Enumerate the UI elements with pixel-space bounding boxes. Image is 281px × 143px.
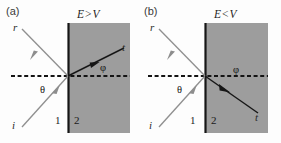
- condition-energy-b: E: [214, 8, 221, 20]
- phi-angle-label-a: φ: [100, 63, 106, 74]
- ray-label-t-b: t: [255, 112, 258, 123]
- theta-angle-label-a: θ: [40, 85, 45, 96]
- condition-potential-a: V: [93, 8, 100, 20]
- reflected-ray-line: [22, 29, 68, 76]
- ray-label-r-a: r: [13, 22, 17, 33]
- panel-label-a: (a): [6, 6, 19, 17]
- incident-ray-line: [22, 76, 68, 127]
- reflected-ray-arrowhead: [167, 51, 175, 60]
- incident-ray-line: [159, 76, 205, 127]
- region-label-1-a: 1: [55, 115, 61, 126]
- panel-label-b: (b): [144, 6, 157, 17]
- condition-energy-a: E: [77, 8, 84, 20]
- ray-label-i-a: i: [12, 120, 15, 131]
- ray-label-r-b: r: [150, 22, 154, 33]
- condition-potential-b: V: [230, 8, 237, 20]
- panel-b: (b) E<V r i t θ φ 1 2: [140, 0, 280, 143]
- panel-a: (a) E>V r i t θ φ 1 2: [0, 0, 140, 143]
- theta-angle-label-b: θ: [177, 85, 182, 96]
- condition-operator-a: >: [84, 8, 93, 20]
- figure-root: (a) E>V r i t θ φ 1 2: [0, 0, 281, 143]
- condition-operator-b: <: [221, 8, 230, 20]
- region-label-2-b: 2: [211, 115, 217, 126]
- ray-label-i-b: i: [149, 120, 152, 131]
- incident-ray-arrowhead: [189, 85, 197, 94]
- region-label-2-a: 2: [74, 115, 80, 126]
- reflected-ray-line: [159, 29, 205, 76]
- region-label-1-b: 1: [190, 115, 196, 126]
- reflected-ray-arrowhead: [30, 51, 38, 60]
- ray-label-t-a: t: [122, 42, 125, 53]
- panel-a-diagram: [0, 0, 140, 143]
- condition-label-a: E>V: [77, 9, 100, 21]
- phi-angle-label-b: φ: [233, 65, 239, 76]
- condition-label-b: E<V: [214, 9, 237, 21]
- incident-ray-arrowhead: [52, 85, 60, 94]
